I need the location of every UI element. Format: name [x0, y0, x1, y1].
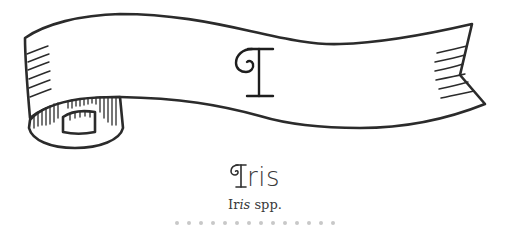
- dotted-divider: [175, 221, 335, 227]
- divider-dot: [259, 221, 263, 225]
- divider-dot: [271, 221, 275, 225]
- title-initial: I: [230, 163, 247, 189]
- ribbon-banner: I: [0, 0, 510, 160]
- banner-initial: I: [0, 0, 1, 1]
- divider-dot: [331, 221, 335, 225]
- divider-dot: [211, 221, 215, 225]
- divider-dot: [307, 221, 311, 225]
- divider-dot: [199, 221, 203, 225]
- ribbon-banner-icon: [0, 0, 510, 160]
- divider-dot: [319, 221, 323, 225]
- divider-dot: [235, 221, 239, 225]
- entry-title: I ris: [0, 160, 510, 194]
- divider-dot: [283, 221, 287, 225]
- divider-dot: [223, 221, 227, 225]
- scientific-name: Iris spp.: [0, 197, 510, 212]
- genus-name: Iris: [228, 197, 250, 212]
- divider-dot: [187, 221, 191, 225]
- decorative-initial-icon: [230, 163, 247, 189]
- divider-dot: [175, 221, 179, 225]
- divider-dot: [295, 221, 299, 225]
- species-suffix: spp.: [250, 197, 282, 212]
- divider-dot: [247, 221, 251, 225]
- title-text: ris: [247, 160, 280, 194]
